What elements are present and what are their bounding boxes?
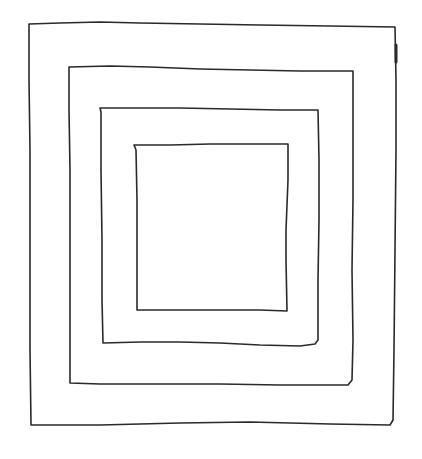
nested-squares-sketch [0, 0, 422, 459]
square-second [69, 66, 353, 385]
square-outer [29, 22, 396, 425]
square-inner [134, 144, 288, 311]
